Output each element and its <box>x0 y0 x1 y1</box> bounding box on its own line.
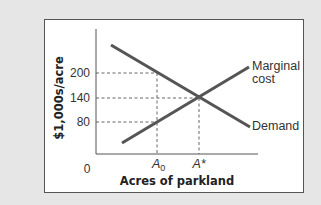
origin-label: 0 <box>84 162 91 176</box>
x-tick-astar: A* <box>191 157 206 171</box>
mc-label-line2: cost <box>252 72 275 86</box>
mc-label-line1: Marginal <box>252 59 300 73</box>
demand-line <box>111 45 250 127</box>
chart-svg: 200 140 80 0 A0 A* $1,000s/acre Acres of… <box>0 0 321 205</box>
marginal-cost-line <box>122 67 249 143</box>
y-tick-80: 80 <box>77 115 91 129</box>
y-tick-200: 200 <box>70 66 90 80</box>
y-axis-title: $1,000s/acre <box>52 56 66 140</box>
y-tick-140: 140 <box>70 91 90 105</box>
x-tick-a0: A0 <box>151 157 165 173</box>
dashed-guides <box>96 73 199 154</box>
x-axis-title: Acres of parkland <box>120 174 234 188</box>
demand-label: Demand <box>252 119 299 133</box>
